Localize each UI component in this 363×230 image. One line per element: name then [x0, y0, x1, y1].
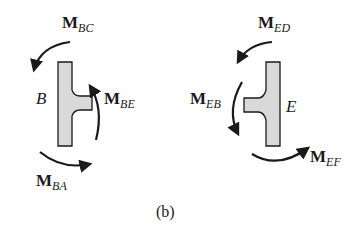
moment-label-be: MBE — [104, 90, 135, 107]
moment-label-ef: MEF — [310, 148, 341, 165]
moment-subscript: EB — [206, 97, 221, 111]
moment-symbol: M — [62, 13, 78, 32]
moment-symbol: M — [310, 147, 326, 166]
moment-symbol: M — [104, 89, 120, 108]
moment-label-ed: MED — [258, 14, 290, 31]
joint-b-shape — [58, 62, 92, 146]
moment-label-ba: MBA — [36, 172, 67, 189]
moment-symbol: M — [258, 13, 274, 32]
moment-label-bc: MBC — [62, 14, 93, 31]
moment-arrow-ed — [238, 42, 272, 62]
moment-subscript: ED — [274, 21, 290, 35]
moment-subscript: BC — [78, 21, 93, 35]
joint-e-shape — [244, 62, 280, 146]
moment-subscript: BE — [120, 97, 135, 111]
moment-label-eb: MEB — [190, 90, 221, 107]
moment-arrow-eb — [233, 82, 242, 134]
figure-caption: (b) — [156, 204, 175, 220]
moment-symbol: M — [190, 89, 206, 108]
moment-subscript: BA — [52, 179, 67, 193]
moment-arrow-be — [90, 86, 99, 140]
moment-arrow-ef — [252, 148, 308, 161]
moment-subscript: EF — [326, 155, 341, 169]
joint-label-e: E — [286, 98, 296, 115]
moment-symbol: M — [36, 171, 52, 190]
free-body-diagram — [0, 0, 363, 230]
joint-label-b: B — [36, 90, 46, 107]
moment-arrow-ba — [40, 152, 90, 166]
